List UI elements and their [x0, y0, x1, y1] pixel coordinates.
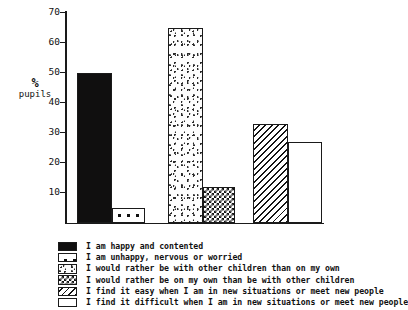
legend-swatch-checkerboard-icon	[58, 275, 77, 284]
legend-swatch-speckle-icon	[58, 264, 77, 273]
legend-label: I would rather be on my own than be with…	[86, 276, 354, 285]
legend-swatch-white-icon	[58, 298, 77, 307]
bars-layer	[0, 0, 374, 240]
legend-item: I would rather be on my own than be with…	[58, 275, 368, 286]
chart-legend: I am happy and contented I am unhappy, n…	[58, 241, 368, 308]
legend-item: I am happy and contented	[58, 241, 368, 252]
legend-item: I find it easy when I am in new situatio…	[58, 286, 368, 297]
legend-label: I find it easy when I am in new situatio…	[86, 287, 384, 296]
bar-unhappy-nervous-worried	[112, 208, 145, 223]
legend-item: I find it difficult when I am in new sit…	[58, 297, 368, 308]
bar-chart-figure: % pupils 70 60 50 40 30 20 10	[0, 0, 374, 240]
legend-label: I find it difficult when I am in new sit…	[86, 298, 408, 307]
legend-swatch-diagonal-hatch-icon	[58, 287, 77, 296]
bar-happy-contented	[77, 73, 112, 223]
legend-swatch-solid-black-icon	[58, 242, 77, 251]
bar-rather-on-my-own	[203, 187, 235, 223]
legend-label: I would rather be with other children th…	[86, 264, 340, 273]
legend-label: I am unhappy, nervous or worried	[86, 253, 242, 262]
legend-label: I am happy and contented	[86, 242, 203, 251]
legend-item: I am unhappy, nervous or worried	[58, 252, 368, 263]
bar-rather-with-other-children	[168, 28, 203, 223]
legend-item: I would rather be with other children th…	[58, 263, 368, 274]
bar-easy-new-situations	[253, 124, 288, 223]
bar-difficult-new-situations	[288, 142, 322, 223]
legend-swatch-sparse-dots-icon	[58, 253, 77, 262]
